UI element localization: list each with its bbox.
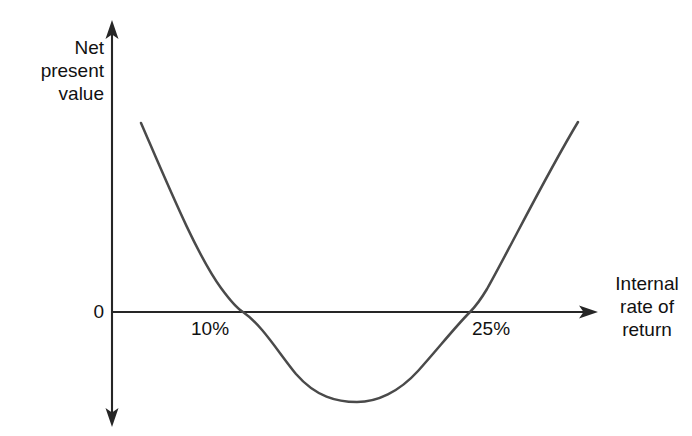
y-axis-label: Net present value <box>8 36 104 106</box>
x-axis-label: Internal rate of return <box>604 272 690 342</box>
x-tick-label-10-percent: 10% <box>191 317 229 340</box>
npv-curve-path <box>141 122 578 402</box>
npv-irr-chart-figure: Net present value Internal rate of retur… <box>0 0 692 436</box>
x-tick-label-25-percent: 25% <box>472 317 510 340</box>
origin-zero-label: 0 <box>84 300 104 323</box>
